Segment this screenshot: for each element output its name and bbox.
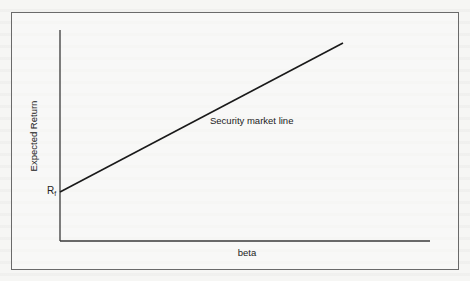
risk-free-rate-label: Rf: [47, 185, 56, 197]
chart-plot: [0, 0, 470, 281]
security-market-line: [60, 43, 343, 192]
y-axis-label: Expected Return: [28, 101, 39, 172]
page: Expected Return beta Security market lin…: [0, 0, 470, 281]
x-axis-label: beta: [238, 247, 257, 258]
rf-subscript: f: [54, 190, 56, 197]
line-label: Security market line: [210, 115, 293, 126]
